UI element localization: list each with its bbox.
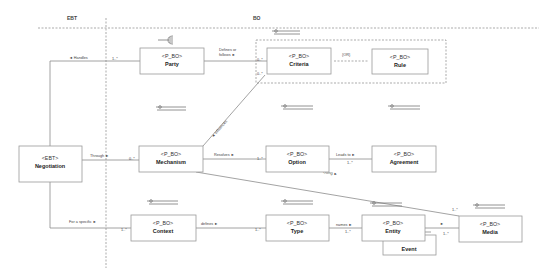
class-name: Agreement — [390, 159, 419, 165]
mult-names: 1..* — [345, 230, 351, 234]
class-entity[interactable]: <P_BO> Entity — [362, 215, 425, 241]
label-defines-or-follows-2: follows ► — [219, 53, 236, 57]
class-name: Negotiation — [35, 163, 66, 169]
class-type[interactable]: <P_BO> Type — [266, 215, 329, 241]
mult-using: 1..* — [452, 208, 458, 212]
stereotype-label: <P_BO> — [394, 151, 414, 157]
class-media[interactable]: <P_BO> Media — [459, 216, 522, 242]
mult-entity-media: 1..* — [443, 232, 449, 236]
class-name: Party — [165, 61, 180, 67]
label-through: Through ► — [90, 154, 109, 158]
class-name: Rule — [394, 62, 406, 68]
class-name: Option — [288, 159, 306, 165]
stereotype-label: <P_BO> — [287, 220, 307, 226]
class-name: Context — [153, 228, 174, 234]
mult-influences: 0..* — [257, 72, 263, 76]
class-name: Mechanism — [156, 159, 186, 165]
mult-defines: 1..* — [255, 228, 261, 232]
stereotype-label: <P_BO> — [162, 53, 182, 59]
uml-class-diagram: EBT BO ◄ Handles 1..* Defines or follows… — [0, 0, 539, 268]
stereotype-label: <P_BO> — [480, 221, 500, 227]
mult-through: 0..* — [129, 157, 135, 161]
class-negotiation[interactable]: <EBT> Negotiation — [19, 146, 82, 182]
class-name: Media — [482, 229, 499, 235]
fork-icon — [158, 36, 173, 44]
circle-line-icon-type — [281, 200, 313, 204]
stereotype-label: <P_BO> — [390, 54, 410, 60]
class-party[interactable]: <P_BO> Party — [140, 48, 204, 74]
stereotype-label: <P_BO> — [153, 220, 173, 226]
stereotype-label: <EBT> — [42, 155, 59, 161]
circle-line-icon-option — [281, 105, 313, 109]
label-handles: ◄ Handles — [69, 56, 88, 60]
circle-line-icon-mechanism — [156, 106, 186, 110]
stereotype-label: <P_BO> — [383, 220, 403, 226]
label-influences: ◄ influences — [211, 119, 228, 138]
stereotype-label: <P_BO> — [161, 151, 181, 157]
class-context[interactable]: <P_BO> Context — [131, 215, 196, 241]
zone-label-ebt: EBT — [67, 15, 77, 21]
stereotype-label: <P_BO> — [287, 151, 307, 157]
class-mechanism[interactable]: <P_BO> Mechanism — [139, 146, 203, 172]
class-rule[interactable]: <P_BO> Rule — [372, 49, 428, 74]
mult-defines-or-follows: 0..* — [257, 58, 263, 62]
label-names: names ► — [336, 223, 352, 227]
label-defines: defines ► — [201, 222, 218, 226]
class-name: Event — [402, 246, 417, 252]
label-resolves: Resolves ► — [214, 153, 235, 157]
circle-line-icon-criteria — [272, 30, 300, 34]
assoc-using-line — [196, 172, 459, 216]
circle-line-icon-media — [473, 204, 505, 208]
mult-resolves: 1..* — [257, 157, 263, 161]
mult-handles: 1..* — [112, 57, 118, 61]
class-option[interactable]: <P_BO> Option — [266, 146, 329, 172]
assoc-handles-line — [50, 61, 140, 146]
class-criteria[interactable]: <P_BO> Criteria — [267, 48, 331, 74]
label-leads-to: Leads to ► — [336, 153, 356, 157]
mult-leads-to: 1..* — [347, 161, 353, 165]
label-for-a-specific: For a specific ► — [69, 220, 97, 224]
class-agreement[interactable]: <P_BO> Agreement — [372, 146, 436, 172]
class-name: Entity — [385, 228, 401, 234]
mult-for-a-specific: 1..* — [121, 228, 127, 232]
label-or: {OR} — [342, 53, 351, 57]
class-name: Type — [291, 228, 303, 234]
stereotype-label: <P_BO> — [289, 53, 309, 59]
label-entity-media: ► — [440, 222, 444, 226]
class-name: Criteria — [289, 61, 309, 67]
zone-label-bo: BO — [253, 15, 261, 21]
circle-line-icon-context — [147, 200, 178, 204]
label-defines-or-follows-1: Defines or — [219, 48, 237, 52]
circle-line-icon-agreement — [388, 105, 420, 109]
